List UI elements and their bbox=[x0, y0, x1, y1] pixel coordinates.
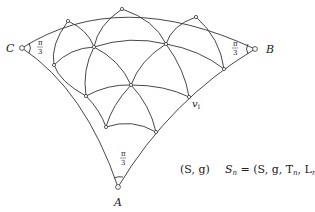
interior-edge bbox=[94, 40, 166, 47]
vertex bbox=[222, 67, 225, 70]
interior-edge bbox=[131, 44, 166, 85]
label-vi: vi bbox=[192, 98, 201, 111]
svg-text:3: 3 bbox=[233, 49, 237, 57]
svg-text:3: 3 bbox=[38, 48, 42, 56]
svg-text:π: π bbox=[38, 39, 43, 47]
interior-edge bbox=[106, 85, 131, 127]
interior-edge bbox=[122, 9, 166, 44]
interior-edge bbox=[94, 47, 131, 85]
svg-text:3: 3 bbox=[121, 159, 125, 167]
vertex bbox=[92, 45, 95, 48]
vertex bbox=[154, 130, 157, 133]
vertex bbox=[66, 19, 69, 22]
label-C: C bbox=[6, 42, 15, 55]
label-A: A bbox=[113, 196, 122, 209]
angle-label-B: π 3 bbox=[232, 40, 238, 57]
svg-text:π: π bbox=[121, 150, 126, 158]
sn-formula: Sn = (S, g, Tn, Ln) bbox=[225, 163, 315, 177]
vertex-vi bbox=[187, 95, 190, 98]
vertex bbox=[52, 63, 55, 66]
outer-arc-top bbox=[22, 17, 255, 49]
outer-arc-left bbox=[22, 48, 118, 187]
interior-edge bbox=[85, 47, 94, 96]
svg-text:π: π bbox=[233, 40, 238, 48]
vertex bbox=[194, 15, 197, 18]
angle-label-C: π 3 bbox=[37, 39, 43, 56]
vertex bbox=[104, 125, 107, 128]
surface-formula: (S, g) bbox=[180, 163, 210, 176]
vertex bbox=[129, 83, 132, 86]
label-B: B bbox=[265, 43, 274, 56]
angle-label-A: π 3 bbox=[120, 150, 126, 167]
triangulated-surface-diagram: C B A vi π 3 π 3 π 3 (S, g) Sn = (S, g, … bbox=[0, 0, 315, 212]
vertex bbox=[120, 7, 123, 10]
vertex bbox=[84, 94, 87, 97]
vertex bbox=[164, 42, 167, 45]
vertex-A bbox=[116, 185, 121, 190]
vertex-B bbox=[253, 47, 258, 52]
interior-edge bbox=[86, 85, 131, 96]
angle-arc-C bbox=[29, 43, 31, 53]
interior-edge bbox=[196, 17, 224, 69]
interior-edge bbox=[166, 44, 189, 97]
interior-edge bbox=[106, 123, 156, 132]
interior-edge bbox=[131, 85, 156, 132]
vertex-C bbox=[20, 46, 25, 51]
angle-arc-A bbox=[114, 177, 123, 178]
